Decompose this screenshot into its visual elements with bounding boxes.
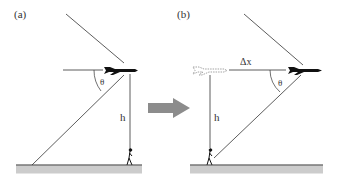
sight-line <box>214 75 301 158</box>
panel-b-label: (b) <box>177 8 190 21</box>
wavefront-line <box>244 14 303 65</box>
transition-arrow-icon <box>148 98 190 118</box>
h-label: h <box>214 111 220 123</box>
panel-a: (a) θ h <box>14 8 142 174</box>
airplane-icon <box>104 67 138 75</box>
observer-icon <box>127 149 132 165</box>
delta-x-label: Δx <box>240 56 251 67</box>
theta-label: θ <box>278 78 282 88</box>
panel-b: (b) Δx θ h <box>177 8 323 174</box>
ground <box>190 166 323 174</box>
theta-label: θ <box>100 77 104 87</box>
ghost-airplane-icon <box>193 67 227 75</box>
ground <box>16 166 142 174</box>
airplane-icon <box>288 67 322 75</box>
observer-icon <box>207 149 212 165</box>
diagram-canvas: (a) θ h (b) <box>0 0 337 177</box>
wavefront-line <box>66 14 124 63</box>
panel-a-label: (a) <box>14 8 27 21</box>
sight-line <box>32 75 124 165</box>
h-label: h <box>120 111 126 123</box>
